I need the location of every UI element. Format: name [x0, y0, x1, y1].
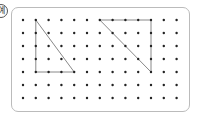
grid-dot [111, 45, 113, 47]
grid-dot [150, 45, 152, 47]
grid-dot [73, 58, 75, 60]
grid-dot [73, 32, 75, 34]
left-triangle [36, 20, 74, 72]
grid-dot [163, 58, 165, 60]
grid-dot [175, 19, 177, 21]
grid-dot [99, 19, 101, 21]
grid-dot [86, 19, 88, 21]
grid-dot [111, 97, 113, 99]
grid-dot [47, 71, 49, 73]
grid-dot [137, 45, 139, 47]
grid-dot [99, 97, 101, 99]
grid-dot [22, 58, 24, 60]
grid-dot [111, 71, 113, 73]
grid-dot [73, 71, 75, 73]
grid-dot [163, 19, 165, 21]
grid-dot [47, 32, 49, 34]
grid-dot [22, 45, 24, 47]
grid-dot [35, 32, 37, 34]
grid-dot [99, 45, 101, 47]
grid-dot [35, 58, 37, 60]
grid-dot [150, 58, 152, 60]
grid-dot [175, 32, 177, 34]
grid-dot [35, 71, 37, 73]
grid-dot [163, 97, 165, 99]
grid-dot [137, 32, 139, 34]
grid-dot [73, 19, 75, 21]
grid-dot [124, 58, 126, 60]
grid-dot [99, 32, 101, 34]
grid-dot [99, 84, 101, 86]
grid-dot [111, 32, 113, 34]
grid-dot [175, 97, 177, 99]
grid-dot [73, 45, 75, 47]
grid-dot [22, 97, 24, 99]
grid-dot [137, 84, 139, 86]
grid-dot [175, 58, 177, 60]
grid-dot [163, 32, 165, 34]
grid-dot [163, 45, 165, 47]
grid-dot [73, 97, 75, 99]
grid-dot [35, 45, 37, 47]
grid-dot [124, 84, 126, 86]
grid-dot [60, 45, 62, 47]
grid-dot [60, 97, 62, 99]
grid-dot [137, 97, 139, 99]
grid-dot [47, 97, 49, 99]
grid-dot [86, 58, 88, 60]
grid-dot [22, 71, 24, 73]
grid-dot [99, 71, 101, 73]
grid-dot [35, 97, 37, 99]
grid-dot [150, 84, 152, 86]
grid-dot [60, 71, 62, 73]
grid-dot [35, 19, 37, 21]
grid-dot [163, 84, 165, 86]
grid-dot [22, 32, 24, 34]
grid-dot [60, 32, 62, 34]
grid-dot [124, 32, 126, 34]
grid-dot [175, 45, 177, 47]
grid-dot [47, 84, 49, 86]
grid-dot [137, 71, 139, 73]
grid-dot [86, 45, 88, 47]
grid-dot [47, 45, 49, 47]
grid-dot [99, 58, 101, 60]
grid-dot [163, 71, 165, 73]
grid-dot [73, 84, 75, 86]
dot-grid [0, 0, 199, 116]
grid-dot [150, 19, 152, 21]
grid-dot [124, 71, 126, 73]
grid-dot [150, 71, 152, 73]
grid-dot [60, 19, 62, 21]
grid-dot [137, 19, 139, 21]
grid-dot [86, 32, 88, 34]
grid-dot [22, 84, 24, 86]
grid-dot [175, 84, 177, 86]
grid-dot [35, 84, 37, 86]
grid-dot [137, 58, 139, 60]
grid-dot [124, 45, 126, 47]
grid-dot [124, 19, 126, 21]
grid-dot [111, 19, 113, 21]
grid-dot [60, 84, 62, 86]
grid-dot [150, 97, 152, 99]
grid-dot [111, 84, 113, 86]
grid-dot [60, 58, 62, 60]
grid-dot [175, 71, 177, 73]
grid-dot [86, 97, 88, 99]
grid-dot [150, 32, 152, 34]
grid-dot [124, 97, 126, 99]
grid-dot [47, 19, 49, 21]
grid-dot [111, 58, 113, 60]
grid-dot [22, 19, 24, 21]
grid-dot [47, 58, 49, 60]
grid-dot [86, 71, 88, 73]
grid-dot [86, 84, 88, 86]
